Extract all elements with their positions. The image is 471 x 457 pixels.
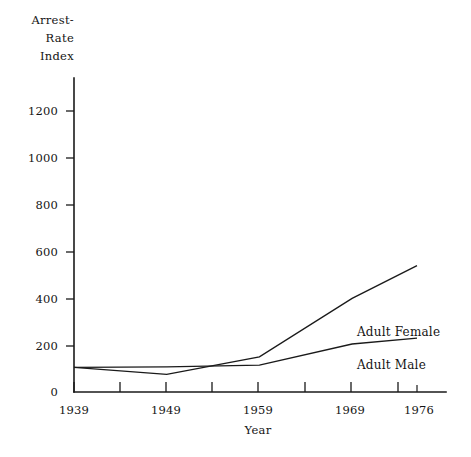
x-axis-ticks	[74, 382, 417, 392]
x-axis-title: Year	[244, 423, 272, 437]
y-tick-label-1000: 1000	[28, 151, 58, 165]
y-axis-title-line-2: Rate	[46, 31, 74, 45]
y-tick-label-400: 400	[35, 292, 58, 306]
y-axis-tick-labels: 1200 1000 800 600 400 200 0	[28, 104, 58, 399]
y-tick-label-200: 200	[35, 339, 58, 353]
x-axis-tick-labels: 1939 1949 1959 1969 1976	[59, 403, 434, 417]
y-tick-label-600: 600	[35, 245, 58, 259]
x-tick-label-1949: 1949	[151, 403, 181, 417]
y-axis-title-line-3: Index	[40, 49, 74, 63]
x-tick-label-1939: 1939	[59, 403, 89, 417]
y-tick-label-0: 0	[50, 385, 58, 399]
x-tick-label-1959: 1959	[243, 403, 273, 417]
y-axis-ticks	[66, 111, 74, 346]
series-label-adult-female: Adult Female	[356, 325, 440, 339]
y-axis-title-line-1: Arrest-	[30, 13, 74, 27]
chart-page: Arrest- Rate Index 1200 1000 800 600 400…	[0, 0, 471, 457]
y-tick-label-800: 800	[35, 198, 58, 212]
x-tick-label-1976: 1976	[404, 403, 434, 417]
arrest-rate-index-line-chart: Arrest- Rate Index 1200 1000 800 600 400…	[0, 0, 471, 457]
y-tick-label-1200: 1200	[28, 104, 58, 118]
series-label-adult-male: Adult Male	[356, 358, 426, 372]
x-tick-label-1969: 1969	[335, 403, 365, 417]
